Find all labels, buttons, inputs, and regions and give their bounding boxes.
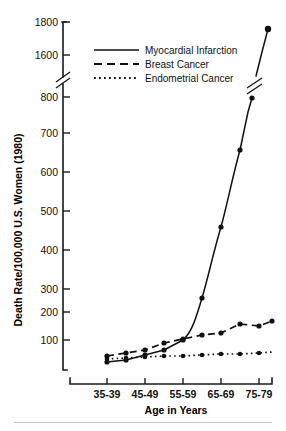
x-tick-marks (107, 378, 259, 384)
y-tick-label-100: 100 (40, 334, 58, 346)
x-axis-line (70, 378, 272, 384)
legend-label-myocardial-infarction: Myocardial Infarction (145, 45, 237, 56)
y-axis-lower-segment (63, 84, 67, 370)
chart-legend: Myocardial Infarction Breast Cancer Endo… (94, 45, 237, 84)
footer-divider (14, 422, 272, 423)
y-tick-label-400: 400 (40, 244, 58, 256)
chart-figure: Death Rate/100,000 U.S. Women (1980) 180… (0, 0, 286, 431)
x-tick-label-45-49: 45-49 (132, 388, 159, 400)
y-axis-upper-segment (62, 22, 66, 77)
death-rate-line-chart: Death Rate/100,000 U.S. Women (1980) 180… (0, 0, 286, 431)
x-tick-label-65-69: 65-69 (208, 388, 235, 400)
y-tick-label-300: 300 (40, 283, 58, 295)
y-tick-label-600: 600 (40, 166, 58, 178)
y-tick-label-1600: 1600 (35, 49, 59, 61)
y-tick-label-700: 700 (40, 127, 58, 139)
legend-label-endometrial-cancer: Endometrial Cancer (145, 73, 234, 84)
legend-label-breast-cancer: Breast Cancer (145, 59, 210, 70)
y-axis-title: Death Rate/100,000 U.S. Women (1980) (12, 134, 24, 327)
y-tick-label-200: 200 (40, 306, 58, 318)
breast-cancer-line (107, 321, 272, 356)
y-tick-marks (63, 22, 70, 340)
mi-line-break-mark (247, 78, 262, 94)
series-breast-cancer (104, 318, 274, 358)
x-axis-title: Age in Years (145, 404, 208, 416)
y-tick-label-1800: 1800 (35, 16, 59, 28)
y-tick-label-800: 800 (40, 91, 58, 103)
x-tick-label-55-59: 55-59 (170, 388, 197, 400)
y-tick-label-500: 500 (40, 205, 58, 217)
x-tick-label-35-39: 35-39 (94, 388, 121, 400)
x-tick-label-75-79: 75-79 (246, 388, 273, 400)
